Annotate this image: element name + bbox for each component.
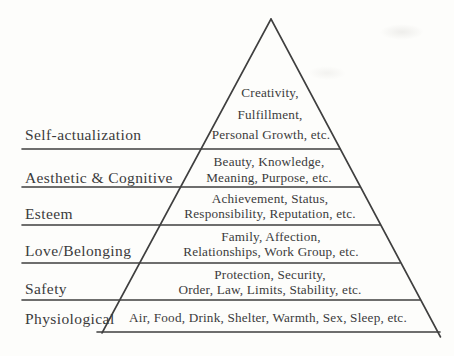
level-label-physiological: Physiological <box>25 310 115 328</box>
level-text-line: Relationships, Work Group, etc. <box>183 244 359 260</box>
level-label-aesthetic-cognitive: Aesthetic & Cognitive <box>25 169 173 187</box>
level-text-line: Order, Law, Limits, Stability, etc. <box>178 282 361 298</box>
level-text-line: Air, Food, Drink, Shelter, Warmth, Sex, … <box>129 310 407 326</box>
level-text-line: Achievement, Status, <box>212 191 328 207</box>
level-label-love-belonging: Love/Belonging <box>25 242 131 260</box>
level-text-line: Responsibility, Reputation, etc. <box>184 206 355 222</box>
level-text-line: Fulfillment, <box>237 107 302 123</box>
level-text-line: Beauty, Knowledge, <box>214 154 325 170</box>
level-text-line: Personal Growth, etc. <box>212 127 330 143</box>
level-text-line: Creativity, <box>241 85 298 101</box>
level-text-line: Meaning, Purpose, etc. <box>206 170 332 186</box>
level-label-esteem: Esteem <box>25 205 73 223</box>
maslow-pyramid-diagram: Self-actualization Aesthetic & Cognitive… <box>0 0 454 356</box>
level-label-safety: Safety <box>25 280 67 298</box>
level-label-self-actualization: Self-actualization <box>25 126 142 144</box>
